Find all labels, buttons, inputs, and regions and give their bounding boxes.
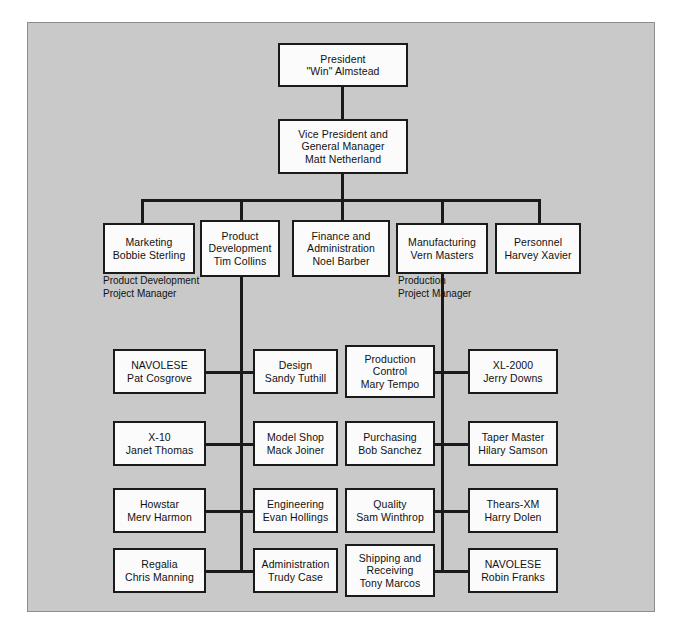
node-manufacturing-line1: Manufacturing bbox=[408, 236, 476, 249]
node-purchasing[interactable]: Purchasing Bob Sanchez bbox=[345, 421, 435, 466]
node-president-line1: President bbox=[320, 53, 365, 66]
node-administration-line2: Trudy Case bbox=[268, 571, 323, 584]
node-taper-master[interactable]: Taper Master Hilary Samson bbox=[468, 421, 558, 466]
node-taper-master-line1: Taper Master bbox=[482, 431, 544, 444]
node-engineering-line1: Engineering bbox=[267, 498, 324, 511]
node-xl-2000[interactable]: XL-2000 Jerry Downs bbox=[468, 349, 558, 394]
node-navolese-pat-line2: Pat Cosgrove bbox=[127, 372, 192, 385]
node-navolese-robin-line2: Robin Franks bbox=[481, 571, 545, 584]
node-vice-president-line2: General Manager bbox=[301, 140, 384, 153]
node-howstar-line2: Merv Harmon bbox=[127, 511, 192, 524]
node-xl2000-line1: XL-2000 bbox=[493, 359, 533, 372]
connector-bus-to-manufacturing bbox=[441, 199, 444, 223]
node-taper-master-line2: Hilary Samson bbox=[478, 444, 548, 457]
node-product-development-line1: Product bbox=[222, 230, 259, 243]
node-purchasing-line2: Bob Sanchez bbox=[358, 444, 422, 457]
node-shipping-line3: Tony Marcos bbox=[360, 577, 421, 590]
org-chart-frame: President "Win" Almstead Vice President … bbox=[27, 22, 655, 612]
label-prod-pm-line2: Project Manager bbox=[398, 288, 471, 301]
node-president-line2: "Win" Almstead bbox=[306, 65, 379, 78]
label-production-project-manager: Production Project Manager bbox=[398, 275, 471, 300]
node-model-shop[interactable]: Model Shop Mack Joiner bbox=[253, 421, 338, 466]
node-navolese-robin-franks[interactable]: NAVOLESE Robin Franks bbox=[468, 548, 558, 593]
connector-vp-drop bbox=[341, 174, 344, 199]
connector-president-to-vp bbox=[341, 87, 344, 119]
node-purchasing-line1: Purchasing bbox=[363, 431, 417, 444]
node-vice-president-line3: Matt Netherland bbox=[305, 153, 381, 166]
node-model-shop-line1: Model Shop bbox=[267, 431, 324, 444]
node-regalia[interactable]: Regalia Chris Manning bbox=[113, 548, 206, 593]
label-product-development-project-manager: Product Development Project Manager bbox=[103, 275, 199, 300]
node-vice-president-line1: Vice President and bbox=[298, 128, 388, 141]
node-engineering-line2: Evan Hollings bbox=[263, 511, 329, 524]
node-shipping-line2: Receiving bbox=[366, 564, 413, 577]
node-engineering[interactable]: Engineering Evan Hollings bbox=[253, 488, 338, 533]
node-x10-line2: Janet Thomas bbox=[126, 444, 194, 457]
node-quality-line1: Quality bbox=[373, 498, 406, 511]
node-navolese-pat-cosgrove[interactable]: NAVOLESE Pat Cosgrove bbox=[113, 349, 206, 394]
node-thears-xm-line2: Harry Dolen bbox=[484, 511, 541, 524]
node-design-line2: Sandy Tuthill bbox=[265, 372, 326, 385]
node-model-shop-line2: Mack Joiner bbox=[267, 444, 325, 457]
node-finance-line1: Finance and bbox=[312, 230, 371, 243]
node-x10[interactable]: X-10 Janet Thomas bbox=[113, 421, 206, 466]
node-marketing-line1: Marketing bbox=[125, 236, 172, 249]
node-x10-line1: X-10 bbox=[148, 431, 171, 444]
connector-bus-to-marketing bbox=[141, 199, 144, 223]
node-production-control-line3: Mary Tempo bbox=[361, 378, 420, 391]
node-product-development-line3: Tim Collins bbox=[214, 255, 267, 268]
node-manufacturing[interactable]: Manufacturing Vern Masters bbox=[396, 223, 488, 274]
node-vice-president[interactable]: Vice President and General Manager Matt … bbox=[278, 119, 408, 174]
node-personnel[interactable]: Personnel Harvey Xavier bbox=[495, 223, 581, 274]
node-shipping-line1: Shipping and bbox=[359, 552, 422, 565]
node-product-development-line2: Development bbox=[209, 242, 272, 255]
node-finance-line2: Administration bbox=[307, 242, 375, 255]
node-product-development[interactable]: Product Development Tim Collins bbox=[200, 220, 280, 277]
node-quality[interactable]: Quality Sam Winthrop bbox=[345, 488, 435, 533]
node-navolese-robin-line1: NAVOLESE bbox=[485, 558, 542, 571]
node-thears-xm-line1: Thears-XM bbox=[487, 498, 540, 511]
node-president[interactable]: President "Win" Almstead bbox=[278, 43, 408, 87]
node-marketing[interactable]: Marketing Bobbie Sterling bbox=[103, 223, 195, 274]
label-prod-pm-line1: Production bbox=[398, 275, 471, 288]
node-personnel-line2: Harvey Xavier bbox=[504, 249, 571, 262]
node-navolese-pat-line1: NAVOLESE bbox=[131, 359, 188, 372]
label-pd-pm-line1: Product Development bbox=[103, 275, 199, 288]
node-personnel-line1: Personnel bbox=[514, 236, 562, 249]
node-regalia-line1: Regalia bbox=[141, 558, 177, 571]
node-production-control-line2: Control bbox=[373, 365, 408, 378]
connector-manufacturing-spine bbox=[441, 274, 444, 573]
node-design-line1: Design bbox=[279, 359, 312, 372]
node-shipping-receiving[interactable]: Shipping and Receiving Tony Marcos bbox=[345, 544, 435, 597]
label-pd-pm-line2: Project Manager bbox=[103, 288, 199, 301]
node-xl2000-line2: Jerry Downs bbox=[483, 372, 542, 385]
node-thears-xm[interactable]: Thears-XM Harry Dolen bbox=[468, 488, 558, 533]
node-administration[interactable]: Administration Trudy Case bbox=[253, 548, 338, 593]
node-design[interactable]: Design Sandy Tuthill bbox=[253, 349, 338, 394]
node-finance-line3: Noel Barber bbox=[312, 255, 369, 268]
node-production-control-line1: Production bbox=[364, 353, 415, 366]
node-manufacturing-line2: Vern Masters bbox=[410, 249, 473, 262]
connector-product-development-spine bbox=[240, 277, 243, 573]
node-finance-administration[interactable]: Finance and Administration Noel Barber bbox=[292, 220, 390, 277]
node-administration-line1: Administration bbox=[262, 558, 330, 571]
node-production-control[interactable]: Production Control Mary Tempo bbox=[345, 345, 435, 398]
connector-bus-to-personnel bbox=[538, 199, 541, 223]
node-regalia-line2: Chris Manning bbox=[125, 571, 194, 584]
node-howstar-line1: Howstar bbox=[140, 498, 179, 511]
node-quality-line2: Sam Winthrop bbox=[356, 511, 424, 524]
node-howstar[interactable]: Howstar Merv Harmon bbox=[113, 488, 206, 533]
node-marketing-line2: Bobbie Sterling bbox=[113, 249, 186, 262]
